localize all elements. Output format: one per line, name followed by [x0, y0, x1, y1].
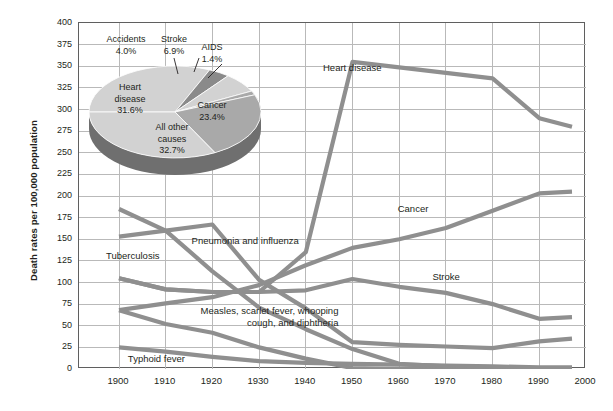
- y-tick-100: 100: [38, 277, 72, 287]
- pie-label-cancer: Cancer23.4%: [198, 100, 227, 123]
- y-tick-325: 325: [38, 82, 72, 92]
- y-tick-225: 225: [38, 168, 72, 178]
- y-tick-300: 300: [38, 104, 72, 114]
- series-label-typhoid-fever: Typhoid fever: [128, 353, 185, 364]
- pie-label-text: Accidents: [107, 34, 146, 44]
- pie-svg: [86, 60, 264, 178]
- x-tick-2000: 2000: [555, 375, 613, 386]
- y-axis-tick-labels: 0255075100125150175200225250275300325350…: [36, 0, 72, 411]
- y-tick-75: 75: [38, 298, 72, 308]
- pie-label-value: 1.4%: [202, 54, 223, 64]
- y-tick-350: 350: [38, 60, 72, 70]
- pie-label-heart-disease: Heartdisease31.6%: [115, 82, 146, 117]
- y-tick-25: 25: [38, 341, 72, 351]
- pie-label-value: 4.0%: [116, 46, 137, 56]
- pie-label-value: 31.6%: [117, 105, 143, 115]
- y-tick-0: 0: [38, 363, 72, 373]
- pie-chart-inset: [86, 60, 264, 178]
- mortality-chart-figure: Death rates per 100,000 population 02550…: [0, 0, 613, 411]
- y-tick-275: 275: [38, 125, 72, 135]
- pie-label-text: Stroke: [161, 34, 187, 44]
- pie-label-value: 23.4%: [199, 112, 225, 122]
- series-label-pneumonia-and-influenza: Pneumonia and influenza: [192, 235, 299, 246]
- pie-label-text: All othercauses: [156, 122, 189, 144]
- pie-label-value: 32.7%: [159, 145, 185, 155]
- pie-label-aids: AIDS1.4%: [202, 42, 223, 65]
- pie-label-all-other-causes: All othercauses32.7%: [156, 122, 189, 157]
- series-line-typhoid-fever: [119, 347, 572, 367]
- y-tick-50: 50: [38, 320, 72, 330]
- y-tick-175: 175: [38, 212, 72, 222]
- pie-label-value: 6.9%: [164, 46, 185, 56]
- pie-label-accidents: Accidents4.0%: [107, 34, 146, 57]
- series-label-tuberculosis: Tuberculosis: [106, 250, 160, 261]
- pie-label-stroke: Stroke6.9%: [161, 34, 187, 57]
- series-label-heart-disease: Heart disease: [323, 62, 382, 73]
- y-tick-150: 150: [38, 233, 72, 243]
- y-tick-250: 250: [38, 147, 72, 157]
- pie-label-text: Heartdisease: [115, 82, 146, 104]
- series-label-stroke: Stroke: [432, 271, 459, 282]
- series-label-cancer: Cancer: [398, 203, 429, 214]
- y-tick-400: 400: [38, 17, 72, 27]
- pie-label-text: AIDS: [202, 42, 223, 52]
- y-tick-125: 125: [38, 255, 72, 265]
- y-tick-200: 200: [38, 190, 72, 200]
- series-label-measles-scarlet-fever-whooping-cough-and-diphtheria: Measles, scarlet fever, whooping cough, …: [198, 305, 338, 330]
- pie-label-text: Cancer: [198, 100, 227, 110]
- y-tick-375: 375: [38, 39, 72, 49]
